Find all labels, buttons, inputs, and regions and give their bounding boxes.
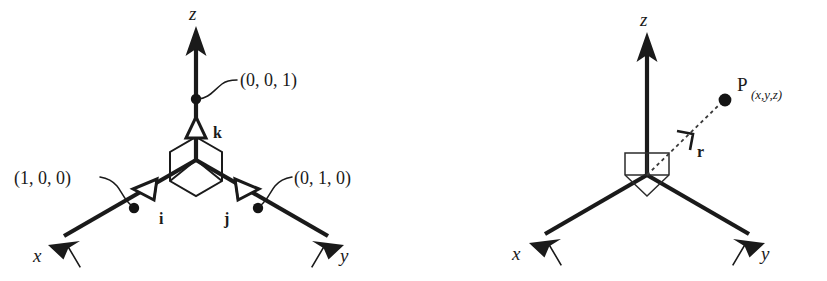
x-axis-arrowhead: [529, 239, 562, 266]
y-axis-line: [647, 175, 749, 234]
diagram-axes-unit-vectors: x y z k i j (0, 0, 1) (1, 0, 0) (0, 1, 0…: [0, 0, 420, 281]
z-axis-arrowhead: [186, 26, 207, 72]
i-unit-arrowhead: [133, 179, 157, 200]
unit-vector-label-i: i: [159, 210, 164, 227]
vector-label-r: r: [697, 143, 704, 160]
coordinate-label-z: (0, 0, 1): [240, 70, 297, 91]
coordinate-label-x: (1, 0, 0): [14, 168, 71, 189]
x-axis-label: x: [32, 245, 42, 266]
x-axis-label: x: [511, 243, 521, 264]
x-axis-line: [64, 160, 196, 236]
z-axis-label: z: [639, 9, 648, 30]
y-axis-label: y: [759, 243, 770, 264]
origin-cube-marker: [170, 137, 222, 196]
leader-line-z-unit: [198, 80, 237, 99]
position-vector-line-r: [647, 105, 719, 175]
point-dot-P: [719, 94, 732, 107]
z-axis-label: z: [188, 3, 197, 24]
x-axis-arrowhead: [48, 241, 81, 268]
j-unit-arrowhead: [235, 179, 259, 200]
position-vector-arrowhead-r: [677, 131, 693, 150]
y-axis-label: y: [338, 245, 349, 266]
unit-vector-label-k: k: [213, 124, 222, 141]
x-axis-line: [545, 175, 647, 234]
figure-root: x y z k i j (0, 0, 1) (1, 0, 0) (0, 1, 0…: [0, 0, 827, 281]
leader-line-x-unit: [100, 177, 132, 206]
point-label-P: P: [737, 74, 748, 95]
diagram-axes-position-vector: x y z r P (x,y,z): [420, 0, 827, 281]
point-label-P-subscript: (x,y,z): [751, 87, 782, 102]
k-unit-arrowhead: [186, 117, 206, 138]
coordinate-label-y: (0, 1, 0): [294, 168, 351, 189]
unit-vector-label-j: j: [223, 210, 229, 228]
z-axis-arrowhead: [637, 32, 658, 78]
leader-line-y-unit: [260, 177, 292, 206]
